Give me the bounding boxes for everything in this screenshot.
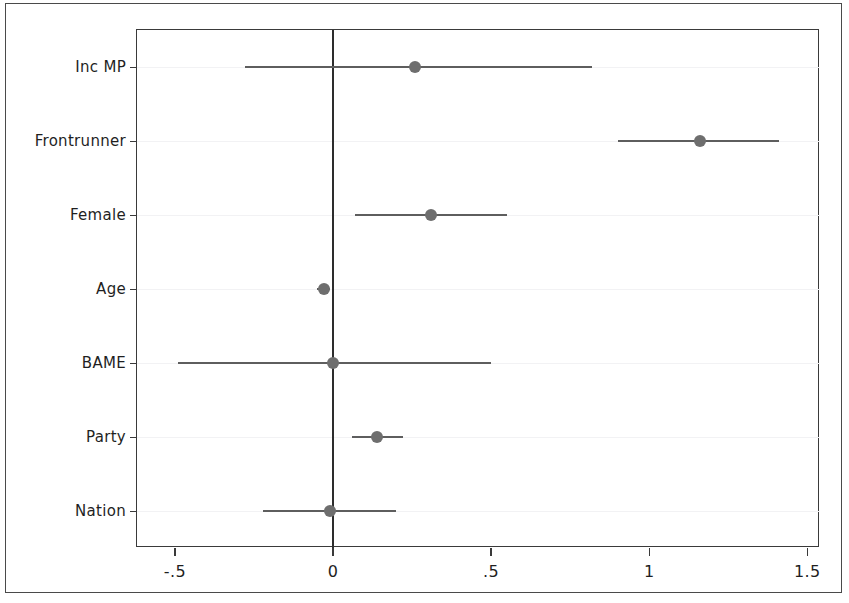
point-estimate-marker bbox=[409, 61, 421, 73]
gridline bbox=[137, 437, 820, 438]
y-axis-tick bbox=[130, 363, 137, 364]
x-axis-tick-label: 1 bbox=[644, 562, 655, 581]
point-estimate-marker bbox=[371, 431, 383, 443]
point-estimate-marker bbox=[324, 505, 336, 517]
point-estimate-marker bbox=[318, 283, 330, 295]
y-axis-label-party: Party bbox=[86, 428, 126, 446]
y-axis-label-female: Female bbox=[70, 206, 126, 224]
plot-area-frame: Inc MPFrontrunnerFemaleAgeBAMEPartyNatio… bbox=[136, 29, 819, 547]
x-axis-tick bbox=[332, 548, 333, 556]
x-axis-tick-label: 0 bbox=[328, 562, 339, 581]
y-axis-label-inc-mp: Inc MP bbox=[75, 58, 126, 76]
x-axis-tick bbox=[807, 548, 808, 556]
point-estimate-marker bbox=[425, 209, 437, 221]
gridline bbox=[137, 289, 820, 290]
x-axis-tick-label: -.5 bbox=[164, 562, 186, 581]
y-axis-label-frontrunner: Frontrunner bbox=[35, 132, 126, 150]
x-axis-tick-label: .5 bbox=[483, 562, 499, 581]
x-axis-tick bbox=[490, 548, 491, 556]
point-estimate-marker bbox=[694, 135, 706, 147]
y-axis-tick bbox=[130, 437, 137, 438]
y-axis-tick bbox=[130, 289, 137, 290]
gridline bbox=[137, 511, 820, 512]
y-axis-tick bbox=[130, 67, 137, 68]
zero-reference-line bbox=[332, 30, 334, 548]
y-axis-label-bame: BAME bbox=[82, 354, 126, 372]
x-axis-tick-label: 1.5 bbox=[794, 562, 821, 581]
y-axis-tick bbox=[130, 141, 137, 142]
y-axis-tick bbox=[130, 511, 137, 512]
x-axis-tick bbox=[174, 548, 175, 556]
y-axis-label-age: Age bbox=[96, 280, 126, 298]
y-axis-tick bbox=[130, 215, 137, 216]
point-estimate-marker bbox=[327, 357, 339, 369]
x-axis-tick bbox=[649, 548, 650, 556]
coefficient-plot-figure: Inc MPFrontrunnerFemaleAgeBAMEPartyNatio… bbox=[0, 0, 849, 603]
y-axis-label-nation: Nation bbox=[75, 502, 126, 520]
plot-canvas bbox=[137, 30, 820, 548]
